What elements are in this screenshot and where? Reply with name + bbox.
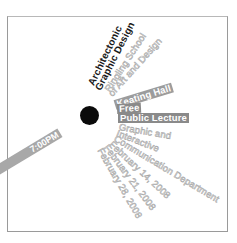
- center-dot: [80, 106, 99, 125]
- event-type-label: Public Lecture: [118, 113, 189, 123]
